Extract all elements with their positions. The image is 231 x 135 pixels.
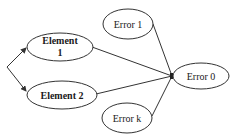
node-error-1: Error 1: [103, 9, 153, 39]
element-1-label-line2: 1: [58, 47, 63, 58]
error-k-label: Error k: [113, 113, 142, 124]
node-error-k: Error k: [102, 103, 152, 133]
node-element-2: Element 2: [27, 81, 97, 109]
element-1-label-line1: Element: [42, 35, 78, 46]
node-element-1: Element 1: [27, 33, 93, 61]
node-error-0: Error 0: [173, 63, 229, 89]
error-0-label: Error 0: [187, 71, 216, 82]
element-2-label: Element 2: [40, 90, 83, 101]
error-1-label: Error 1: [114, 19, 143, 30]
diagram-canvas: Element 1 Element 2 Error 1 Error 0 Erro…: [0, 0, 231, 135]
branch-connector: [7, 48, 26, 91]
